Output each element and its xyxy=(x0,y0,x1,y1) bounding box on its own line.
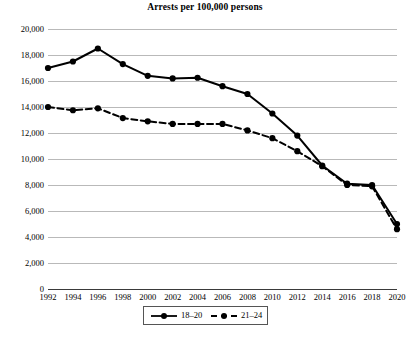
data-point-marker xyxy=(344,182,350,188)
x-axis-tick-labels: 1992199419961998200020022004200620082010… xyxy=(48,292,397,306)
y-tick-label: 10,000 xyxy=(0,155,44,164)
data-point-marker xyxy=(95,45,101,51)
chart-title: Arrests per 100,000 persons xyxy=(0,2,410,12)
data-point-marker xyxy=(244,127,250,133)
data-point-marker xyxy=(219,121,225,127)
data-point-marker xyxy=(70,58,76,64)
data-point-marker xyxy=(45,65,51,71)
y-tick-label: 20,000 xyxy=(0,25,44,34)
data-point-marker xyxy=(369,183,375,189)
data-point-marker xyxy=(194,75,200,81)
data-point-marker xyxy=(170,75,176,81)
data-point-marker xyxy=(294,148,300,154)
chart-legend: 18–20 21–24 xyxy=(143,306,268,325)
data-point-marker xyxy=(145,118,151,124)
data-point-marker xyxy=(269,135,275,141)
legend-entry-21-24: 21–24 xyxy=(211,307,262,324)
data-point-marker xyxy=(219,83,225,89)
y-tick-label: 8,000 xyxy=(0,181,44,190)
legend-swatch-solid-line-icon xyxy=(151,311,177,321)
series-layer xyxy=(48,29,397,289)
y-tick-label: 14,000 xyxy=(0,103,44,112)
data-point-marker xyxy=(244,91,250,97)
legend-label-21-24: 21–24 xyxy=(241,311,262,320)
data-point-marker xyxy=(170,121,176,127)
data-point-marker xyxy=(319,163,325,169)
data-point-marker xyxy=(45,104,51,110)
legend-label-18-20: 18–20 xyxy=(181,311,202,320)
x-tick-label: 2020 xyxy=(382,292,410,302)
y-tick-label: 16,000 xyxy=(0,77,44,86)
plot-area xyxy=(48,29,397,289)
data-point-marker xyxy=(120,61,126,67)
data-point-marker xyxy=(70,107,76,113)
legend-swatch-dashed-line-icon xyxy=(211,311,237,321)
y-tick-label: 6,000 xyxy=(0,207,44,216)
chart-figure: Arrests per 100,000 persons 02,0004,0006… xyxy=(0,0,410,337)
y-tick-label: 2,000 xyxy=(0,259,44,268)
data-point-marker xyxy=(194,121,200,127)
series-line-0 xyxy=(48,49,397,225)
data-point-marker xyxy=(145,73,151,79)
y-tick-label: 12,000 xyxy=(0,129,44,138)
y-tick-label: 18,000 xyxy=(0,51,44,60)
data-point-marker xyxy=(294,133,300,139)
data-point-marker xyxy=(120,115,126,121)
gridline xyxy=(48,289,397,290)
data-point-marker xyxy=(269,110,275,116)
data-point-marker xyxy=(394,226,400,232)
y-tick-label: 4,000 xyxy=(0,233,44,242)
data-point-marker xyxy=(95,105,101,111)
legend-entry-18-20: 18–20 xyxy=(151,307,202,324)
